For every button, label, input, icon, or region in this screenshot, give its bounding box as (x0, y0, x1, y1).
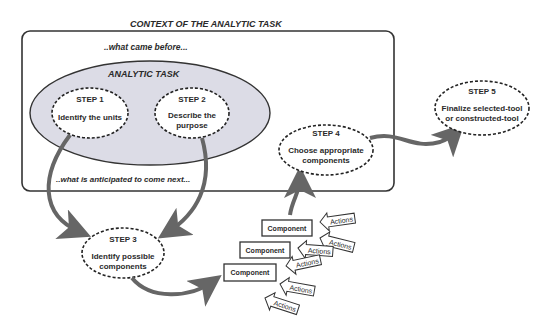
component-box-1: Component (262, 220, 312, 236)
step-4-line2: components (302, 156, 350, 165)
before-label: ..what came before... (104, 42, 188, 52)
context-title: CONTEXT OF THE ANALYTIC TASK (130, 19, 283, 29)
actions-tag-5: Actions (278, 276, 316, 300)
step-4-label: STEP 4 (312, 129, 340, 138)
step-1-label: STEP 1 (76, 95, 104, 104)
actions-tag-1: Actions (319, 209, 356, 232)
step-3: STEP 3 Identify possible components (82, 228, 164, 278)
arrow-step3-to-components (132, 278, 212, 294)
step-2-line1: Describe the (168, 111, 217, 120)
step-2-line2: purpose (176, 121, 208, 130)
actions-tag-6: Actions (262, 290, 301, 318)
component-box-2: Component (240, 242, 290, 258)
step-3-line2: components (99, 262, 147, 271)
after-label: ..what is anticipated to come next... (56, 175, 190, 184)
svg-text:Component: Component (231, 269, 271, 277)
step-5-line2: or constructed-tool (445, 114, 518, 123)
step-2: STEP 2 Describe the purpose (155, 88, 229, 138)
step-5-label: STEP 5 (468, 87, 496, 96)
step-1-line1: Identify the units (58, 113, 123, 122)
step-4-line1: Choose appropriate (288, 146, 364, 155)
arrow-components-to-step4 (290, 178, 300, 215)
step-3-line1: Identify possible (91, 252, 155, 261)
svg-text:Component: Component (246, 247, 286, 255)
step-2-label: STEP 2 (178, 95, 206, 104)
step-3-label: STEP 3 (109, 235, 137, 244)
analytic-task-title: ANALYTIC TASK (107, 69, 181, 79)
component-box-3: Component (224, 264, 276, 281)
step-4: STEP 4 Choose appropriate components (279, 125, 373, 175)
step-1: STEP 1 Identify the units (52, 88, 128, 138)
analytic-task-diagram: CONTEXT OF THE ANALYTIC TASK ..what came… (0, 0, 550, 327)
svg-text:Component: Component (268, 225, 308, 233)
arrow-step4-to-step5 (370, 132, 456, 144)
step-5-line1: Finalize selected-tool (442, 104, 523, 113)
step-5: STEP 5 Finalize selected-tool or constru… (435, 81, 529, 135)
